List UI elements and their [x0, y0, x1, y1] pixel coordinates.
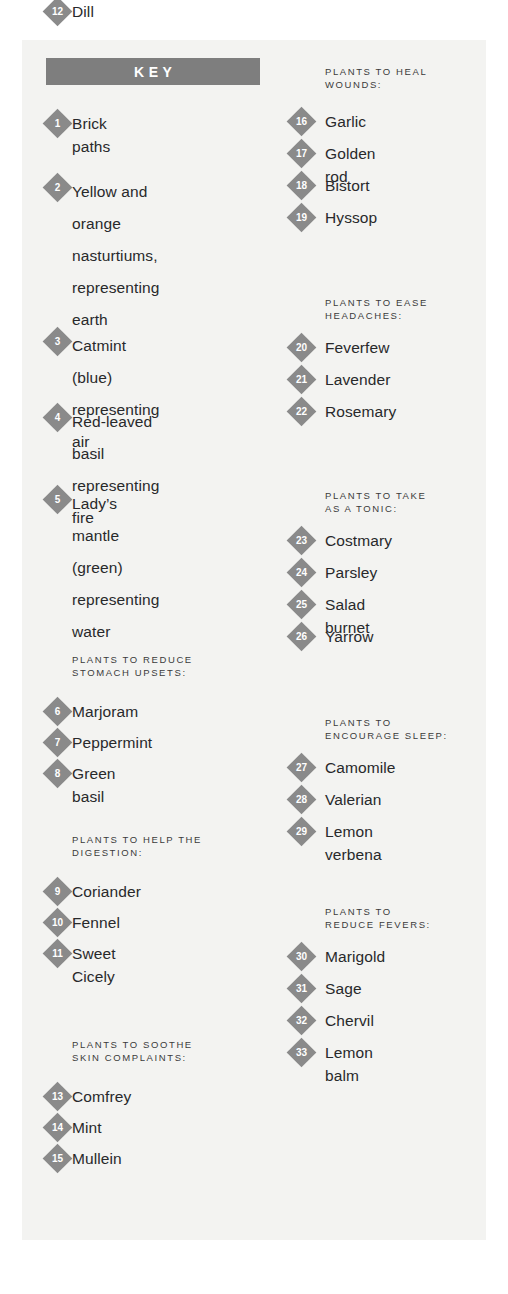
diamond-marker-icon: 6 [46, 700, 69, 723]
marker-number: 17 [290, 142, 313, 165]
marker-number: 14 [46, 1116, 69, 1139]
diamond-marker-icon: 14 [46, 1116, 69, 1139]
diamond-marker-icon: 10 [46, 911, 69, 934]
diamond-marker-icon: 7 [46, 731, 69, 754]
diamond-marker-icon: 24 [290, 561, 313, 584]
entry-label: Peppermint [72, 731, 152, 754]
marker-number: 1 [46, 112, 69, 135]
entry-label: Chervil [325, 1009, 374, 1032]
entry-label: Lavender [325, 368, 390, 391]
marker-number: 19 [290, 206, 313, 229]
marker-number: 2 [46, 176, 69, 199]
marker-number: 24 [290, 561, 313, 584]
marker-number: 21 [290, 368, 313, 391]
diamond-marker-icon: 12 [46, 0, 69, 23]
marker-number: 16 [290, 110, 313, 133]
entry-label: Dill [72, 0, 94, 23]
diamond-marker-icon: 5 [46, 488, 69, 511]
marker-number: 8 [46, 762, 69, 785]
entry-label: Mullein [72, 1147, 122, 1170]
entry-label: Hyssop [325, 206, 377, 229]
entry-label: Yellow and orange nasturtiums, represent… [72, 176, 159, 336]
marker-number: 5 [46, 488, 69, 511]
marker-number: 29 [290, 820, 313, 843]
diamond-marker-icon: 25 [290, 593, 313, 616]
entry-label: Marigold [325, 945, 385, 968]
diamond-marker-icon: 11 [46, 942, 69, 965]
diamond-marker-icon: 30 [290, 945, 313, 968]
entry-label: Comfrey [72, 1085, 131, 1108]
entry-label: Coriander [72, 880, 141, 903]
section-heading: PLANTS TO REDUCE STOMACH UPSETS: [72, 653, 193, 679]
entry-label: Brick paths [72, 112, 110, 158]
section-heading: PLANTS TO TAKE AS A TONIC: [325, 489, 426, 515]
marker-number: 33 [290, 1041, 313, 1064]
entry-label: Parsley [325, 561, 377, 584]
diamond-marker-icon: 2 [46, 176, 69, 199]
diamond-marker-icon: 33 [290, 1041, 313, 1064]
marker-number: 10 [46, 911, 69, 934]
entry-label: Feverfew [325, 336, 390, 359]
diamond-marker-icon: 9 [46, 880, 69, 903]
marker-number: 30 [290, 945, 313, 968]
entry-label: Lemon verbena [325, 820, 382, 866]
marker-number: 13 [46, 1085, 69, 1108]
section-heading: PLANTS TO HELP THE DIGESTION: [72, 833, 202, 859]
section-heading: PLANTS TO SOOTHE SKIN COMPLAINTS: [72, 1038, 193, 1064]
diamond-marker-icon: 28 [290, 788, 313, 811]
scanned-page: KEY 1Brick paths2Yellow and orange nastu… [0, 0, 508, 1294]
entry-label: Fennel [72, 911, 120, 934]
diamond-marker-icon: 18 [290, 174, 313, 197]
key-banner: KEY [46, 58, 260, 85]
section-heading: PLANTS TO EASE HEADACHES: [325, 296, 428, 322]
entry-label: Sage [325, 977, 362, 1000]
marker-number: 7 [46, 731, 69, 754]
diamond-marker-icon: 22 [290, 400, 313, 423]
marker-number: 26 [290, 625, 313, 648]
diamond-marker-icon: 26 [290, 625, 313, 648]
section-heading: PLANTS TO REDUCE FEVERS: [325, 905, 431, 931]
diamond-marker-icon: 27 [290, 756, 313, 779]
marker-number: 20 [290, 336, 313, 359]
diamond-marker-icon: 23 [290, 529, 313, 552]
diamond-marker-icon: 20 [290, 336, 313, 359]
marker-number: 9 [46, 880, 69, 903]
diamond-marker-icon: 32 [290, 1009, 313, 1032]
diamond-marker-icon: 4 [46, 406, 69, 429]
marker-number: 31 [290, 977, 313, 1000]
marker-number: 32 [290, 1009, 313, 1032]
diamond-marker-icon: 29 [290, 820, 313, 843]
entry-label: Mint [72, 1116, 102, 1139]
diamond-marker-icon: 8 [46, 762, 69, 785]
entry-label: Bistort [325, 174, 370, 197]
marker-number: 23 [290, 529, 313, 552]
diamond-marker-icon: 1 [46, 112, 69, 135]
marker-number: 18 [290, 174, 313, 197]
entry-label: Lady’s mantle (green) representing water [72, 488, 159, 648]
entry-label: Yarrow [325, 625, 374, 648]
diamond-marker-icon: 3 [46, 330, 69, 353]
diamond-marker-icon: 31 [290, 977, 313, 1000]
marker-number: 12 [46, 0, 69, 23]
marker-number: 25 [290, 593, 313, 616]
marker-number: 27 [290, 756, 313, 779]
marker-number: 6 [46, 700, 69, 723]
diamond-marker-icon: 21 [290, 368, 313, 391]
entry-label: Valerian [325, 788, 382, 811]
marker-number: 28 [290, 788, 313, 811]
diamond-marker-icon: 15 [46, 1147, 69, 1170]
entry-label: Sweet Cicely [72, 942, 116, 988]
key-banner-label: KEY [130, 65, 177, 79]
entry-label: Rosemary [325, 400, 396, 423]
section-heading: PLANTS TO ENCOURAGE SLEEP: [325, 716, 448, 742]
marker-number: 22 [290, 400, 313, 423]
entry-label: Costmary [325, 529, 392, 552]
marker-number: 4 [46, 406, 69, 429]
entry-label: Camomile [325, 756, 396, 779]
entry-label: Garlic [325, 110, 366, 133]
marker-number: 3 [46, 330, 69, 353]
diamond-marker-icon: 16 [290, 110, 313, 133]
diamond-marker-icon: 19 [290, 206, 313, 229]
section-heading: PLANTS TO HEAL WOUNDS: [325, 65, 427, 91]
entry-label: Marjoram [72, 700, 138, 723]
